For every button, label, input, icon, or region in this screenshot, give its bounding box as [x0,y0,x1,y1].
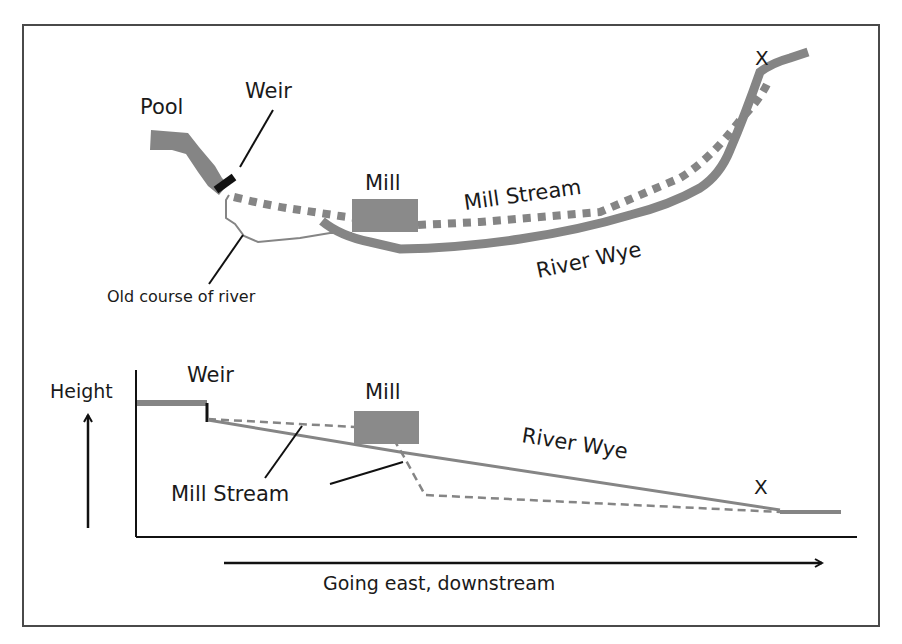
mill-label-profile: Mill [365,380,401,404]
pool-label: Pool [140,95,183,119]
height-label: Height [50,380,113,402]
weir-leader-line [240,110,273,167]
mill-stream-leader-lower [330,462,403,484]
x-marker-profile: X [754,475,768,499]
profile-view: Height Weir Mill River Wye Mill Stream X [50,363,857,594]
weir-label-profile: Weir [187,363,234,387]
x-marker-map: X [755,46,769,70]
mill-stream-label-map: Mill Stream [462,175,582,215]
river-wye-label-profile: River Wye [520,423,629,463]
river-wye-profile [208,420,780,510]
weir-label-map: Weir [245,79,292,103]
mill-stream-diagram: Pool Weir Mill Mill Stream River Wye Old… [0,0,902,644]
map-view: Pool Weir Mill Mill Stream River Wye Old… [107,46,808,306]
direction-label: Going east, downstream [323,572,555,594]
old-course-label: Old course of river [107,287,256,306]
mill-building-map [352,199,418,232]
mill-stream-label-profile: Mill Stream [171,482,289,506]
old-course-leader-line [209,235,243,284]
mill-label-map: Mill [365,171,401,195]
river-wye-label-map: River Wye [534,237,643,283]
old-river-course [226,195,352,242]
mill-building-profile [354,411,419,444]
